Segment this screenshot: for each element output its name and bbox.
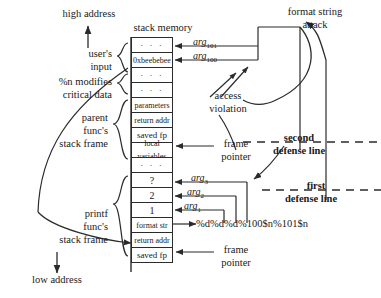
cell-question-text: ? [150,174,154,187]
cell-dots-1-text: · · · [140,39,164,52]
defense-line-verticals [300,27,326,200]
parent-frame-label-line2: func's [10,125,108,136]
cell-dots-4: · · · [131,157,173,173]
cell-one: 1 [131,202,173,218]
arg-2-subscript: 2 [201,192,205,200]
first-defense-label-line1: first [286,180,346,191]
printf-frame-label-line1: printf [10,208,108,219]
brace-users-input [117,43,128,72]
cell-local-vars: local variables [131,142,173,158]
n-modifies-label-line1: %n modifies [4,76,112,87]
frame-pointer-bottom-label-line1: frame [208,244,264,255]
format-string-attack-title-line2: attack [250,19,380,30]
first-defense-label-line2: defense line [264,193,358,204]
arg-label-1: arg1 [184,200,201,214]
cell-return-addr-2-text: return addr [134,234,169,247]
arg-label-2: arg2 [187,186,204,200]
low-address-label: low address [12,274,102,285]
arg-label-3: arg3 [191,172,208,186]
arg-label-101: arg101 [193,36,217,50]
diagram-canvas: high address low address stack memory fo… [0,0,381,298]
access-violation-label-line2: violation [190,103,266,114]
brace-printf-frame [113,176,128,256]
format-string-attack-title-line1: format string [250,6,380,17]
printf-frame-label-line2: func's [10,221,108,232]
format-string-payload: %d%d%d%100$n%101$n [196,218,308,229]
cell-saved-fp-2: saved fp [131,247,173,263]
stack-memory-header: stack memory [108,22,218,33]
access-violation-label-line1: access [190,90,266,101]
cell-two-text: 2 [150,189,155,202]
arg-1-base: arg [184,200,198,211]
brace-n-modifies [117,74,128,94]
cell-dots-1: · · · [131,37,173,53]
cell-dots-2-text: · · · [140,69,164,82]
n-modifies-label-line2: critical data [4,89,112,100]
cell-format-str: format str [131,217,173,233]
cell-dots-4-text: · · · [140,159,164,172]
users-input-label-line1: user's [14,48,112,59]
cell-question: ? [131,172,173,188]
cell-beebebee: 0xbeebebee [131,52,173,68]
arg-100-base: arg [193,50,207,61]
users-input-label-line2: input [14,61,112,72]
cell-beebebee-text: 0xbeebebee [133,54,171,67]
cell-one-text: 1 [150,204,155,217]
cell-two: 2 [131,187,173,203]
parent-frame-label-line3: stack frame [10,138,108,149]
cell-format-str-text: format str [136,219,167,232]
arg-label-100: arg100 [193,50,217,64]
parent-frame-label-line1: parent [10,112,108,123]
arg-100-subscript: 100 [207,56,218,64]
arg-2-base: arg [187,186,201,197]
arg-101-subscript: 101 [207,42,218,50]
cell-parameters: parameters [131,97,173,113]
second-defense-label-line1: second [262,132,336,143]
cell-dots-3: · · · [131,82,173,98]
cell-return-addr-1: return addr [131,112,173,128]
printf-frame-label-line3: stack frame [10,234,108,245]
second-defense-label-line2: defense line [252,145,346,156]
arg-101-base: arg [193,36,207,47]
brace-parent-frame [113,100,128,159]
arg-1-subscript: 1 [198,206,202,214]
cell-dots-3-text: · · · [140,84,164,97]
cell-saved-fp-2-text: saved fp [137,249,167,262]
cell-parameters-text: parameters [134,99,169,112]
cell-dots-2: · · · [131,67,173,83]
frame-pointer-bottom-label-line2: pointer [208,257,264,268]
arg-3-subscript: 3 [205,178,209,186]
cell-return-addr-2: return addr [131,232,173,248]
high-address-label: high address [44,8,134,19]
cell-return-addr-1-text: return addr [134,114,169,127]
arg-3-base: arg [191,172,205,183]
